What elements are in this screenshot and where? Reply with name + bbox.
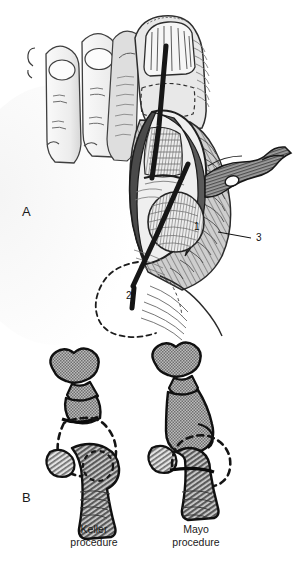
surgical-illustration-canvas: A 1 2 3: [0, 0, 294, 561]
figure-root: A 1 2 3: [0, 0, 294, 561]
callout-number-1: 1: [194, 221, 200, 232]
callout-number-3: 3: [256, 232, 262, 243]
third-toenail: [85, 49, 113, 70]
fourth-toenail: [49, 60, 75, 80]
callout-number-2: 2: [126, 290, 132, 301]
panel-a-letter: A: [22, 204, 31, 219]
fourth-toe: [46, 46, 81, 163]
keller-caption-line-2: procedure: [70, 536, 117, 548]
keller-medial-sesamoid: [46, 450, 74, 477]
mayo-distal-phalanx: [152, 342, 200, 376]
mayo-caption-line-2: procedure: [172, 536, 219, 548]
keller-distal-phalanx: [50, 348, 98, 382]
panel-b-letter: B: [22, 490, 31, 505]
mayo-caption-line-1: Mayo: [183, 523, 209, 535]
keller-caption-line-1: Keller: [81, 523, 108, 535]
medial-eminence-marker: [132, 288, 134, 308]
